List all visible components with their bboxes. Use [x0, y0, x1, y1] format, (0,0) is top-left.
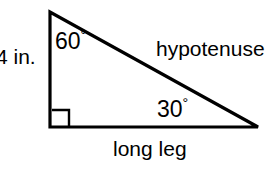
- hypotenuse-label: hypotenuse: [156, 38, 265, 59]
- degree-symbol-icon: °: [81, 27, 87, 43]
- side-length-label: 4 in.: [0, 46, 36, 67]
- angle-60-label: 60°: [55, 28, 86, 53]
- angle-30-label: 30°: [157, 96, 188, 121]
- angle-30-value: 30: [157, 96, 183, 122]
- triangle-figure: 4 in. 60° 30° hypotenuse long leg: [0, 0, 272, 175]
- long-leg-label: long leg: [113, 138, 187, 159]
- angle-60-value: 60: [55, 28, 81, 54]
- degree-symbol-icon: °: [183, 95, 189, 111]
